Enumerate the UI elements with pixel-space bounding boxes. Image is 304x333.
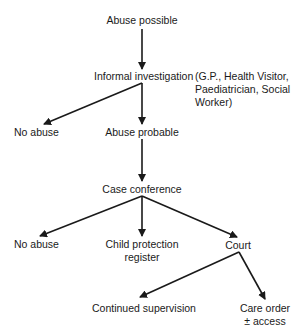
- care-order-line-1: Care order: [236, 302, 294, 315]
- node-informal-investigation: Informal investigation: [94, 70, 193, 83]
- node-no-abuse-1: No abuse: [14, 126, 59, 139]
- node-court: Court: [212, 239, 264, 252]
- arrow-conference-to-no-abuse: [40, 196, 142, 236]
- investigators-note-line-3: Worker): [195, 96, 290, 109]
- register-line-2: register: [92, 251, 192, 264]
- node-care-order: Care order ± access: [236, 302, 294, 328]
- investigators-note-line-2: Paediatrician, Social: [195, 83, 290, 96]
- investigators-note: (G.P., Health Visitor, Paediatrician, So…: [195, 70, 290, 109]
- node-abuse-possible: Abuse possible: [92, 14, 192, 27]
- node-case-conference: Case conference: [92, 183, 192, 196]
- node-abuse-probable: Abuse probable: [92, 126, 192, 139]
- node-no-abuse-2: No abuse: [14, 238, 59, 251]
- node-child-protection-register: Child protection register: [92, 238, 192, 264]
- arrow-investigation-to-no-abuse: [44, 83, 142, 124]
- care-order-line-2: ± access: [236, 315, 294, 328]
- investigators-note-line-1: (G.P., Health Visitor,: [195, 70, 290, 83]
- flowchart-edges: [0, 0, 304, 333]
- node-continued-supervision: Continued supervision: [92, 302, 196, 315]
- arrow-court-to-care-order: [239, 252, 265, 299]
- arrow-conference-to-court: [142, 196, 237, 237]
- register-line-1: Child protection: [92, 238, 192, 251]
